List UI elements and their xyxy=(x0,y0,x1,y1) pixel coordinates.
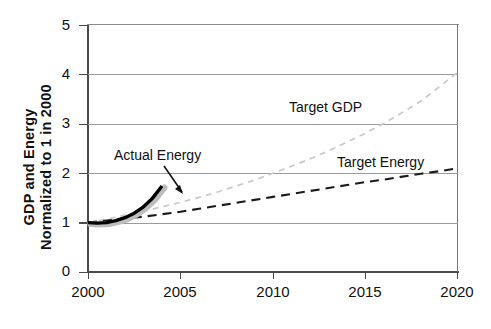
series-actual-energy-shadow xyxy=(91,188,165,225)
series-target-energy xyxy=(88,168,458,222)
actual-energy-annotation-arrowhead xyxy=(175,185,183,194)
series-label-target-gdp: Target GDP xyxy=(289,99,362,115)
series-label-actual-energy: Actual Energy xyxy=(114,147,201,163)
chart-figure: GDP and Energy Normalized to 1 in 2000 5… xyxy=(0,0,491,329)
series-label-target-energy: Target Energy xyxy=(337,154,424,170)
